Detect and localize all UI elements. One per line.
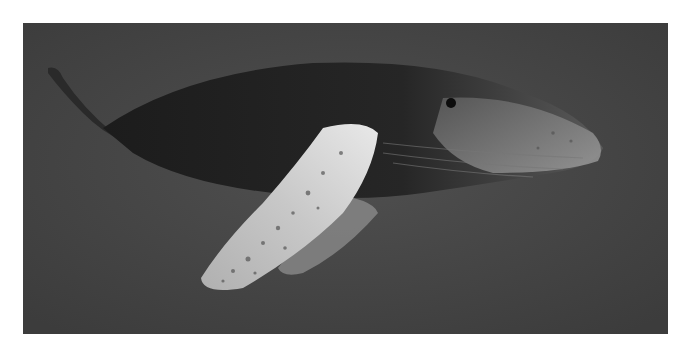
whale-photo	[23, 23, 668, 334]
whale-illustration	[23, 23, 668, 334]
whale-eye	[446, 98, 456, 108]
